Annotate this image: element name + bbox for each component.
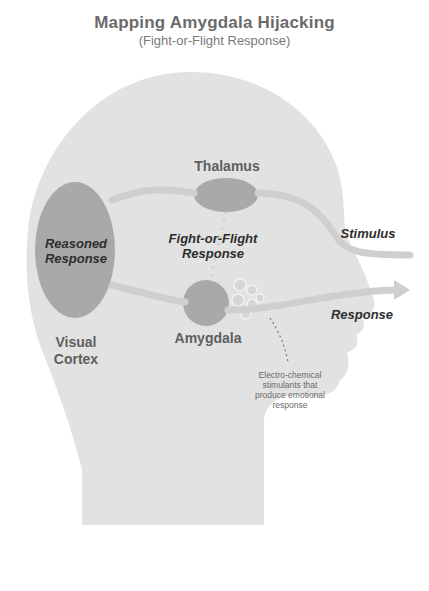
amygdala-shape	[183, 280, 229, 326]
label-stimulus: Stimulus	[328, 226, 408, 241]
head-diagram	[0, 0, 429, 591]
annotation-electro-chemical: Electro-chemical stimulants that produce…	[240, 370, 340, 410]
thalamus-shape	[194, 178, 258, 212]
annotation-line4: response	[240, 400, 340, 410]
label-fight-or-flight: Fight-or-Flight Response	[148, 231, 278, 261]
response-arrowhead	[394, 280, 410, 300]
label-reasoned-line2: Response	[38, 251, 114, 266]
label-visual-cortex: Visual Cortex	[40, 334, 112, 368]
label-thalamus: Thalamus	[190, 158, 264, 174]
label-visual-line2: Cortex	[40, 351, 112, 368]
label-visual-line1: Visual	[40, 334, 112, 351]
label-reasoned-line1: Reasoned	[38, 236, 114, 251]
annotation-line3: produce emotional	[240, 390, 340, 400]
annotation-line2: stimulants that	[240, 380, 340, 390]
label-response: Response	[322, 307, 402, 322]
label-amygdala: Amygdala	[168, 330, 248, 346]
label-reasoned-response: Reasoned Response	[38, 236, 114, 266]
annotation-line1: Electro-chemical	[240, 370, 340, 380]
label-fight-line2: Response	[148, 246, 278, 261]
label-fight-line1: Fight-or-Flight	[148, 231, 278, 246]
